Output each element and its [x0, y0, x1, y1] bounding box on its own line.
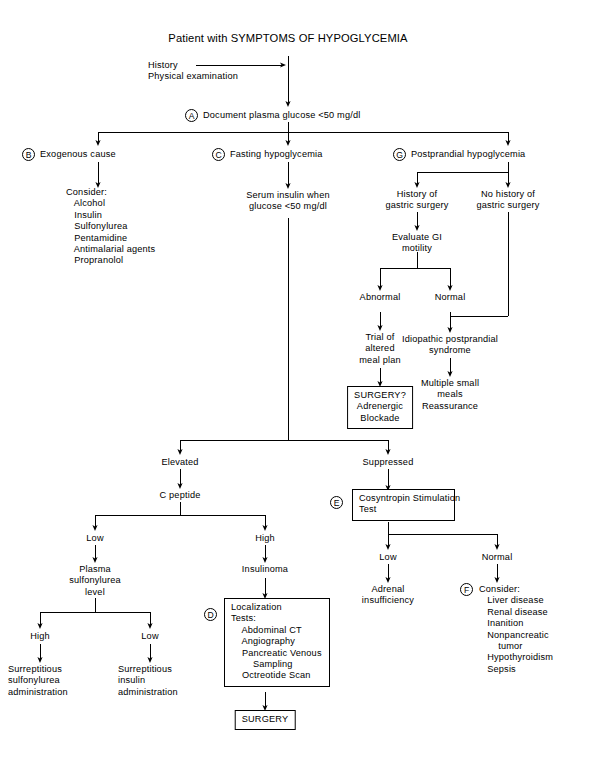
- node-consider-exogenous: Consider: Alcohol Insulin Sulfonylurea P…: [66, 187, 155, 267]
- ref-label-b: B: [22, 148, 35, 161]
- node-surgery-adrenergic-blockade: SURGERY? Adrenergic Blockade: [347, 386, 413, 429]
- node-localization-tests: Localization Tests: Abdominal CT Angiogr…: [224, 598, 330, 687]
- ref-label-e: E: [330, 496, 343, 509]
- node-cosyntropin-test: Cosyntropin Stimulation Test: [352, 489, 455, 521]
- page-title: Patient with SYMPTOMS OF HYPOGLYCEMIA: [168, 32, 407, 44]
- ref-label-f: F: [460, 583, 473, 596]
- ref-label-d: D: [204, 608, 217, 621]
- node-trial-altered-meal-plan: Trial of altered meal plan: [359, 332, 401, 366]
- node-idiopathic-postprandial-syndrome: Idiopathic postprandial syndrome: [402, 334, 498, 357]
- node-surgery: SURGERY: [235, 710, 296, 730]
- node-no-history-gastric-surgery: No history of gastric surgery: [476, 189, 539, 212]
- node-c-peptide: C peptide: [160, 490, 201, 501]
- node-postprandial-hypoglycemia: Postprandial hypoglycemia: [411, 149, 525, 160]
- ref-label-g: G: [393, 148, 406, 161]
- flowchart-canvas: Patient with SYMPTOMS OF HYPOGLYCEMIA Hi…: [0, 0, 593, 769]
- node-history: History Physical examination: [148, 60, 238, 83]
- ref-label-a: A: [185, 109, 198, 122]
- node-consider-normal: Consider: Liver disease Renal disease In…: [479, 584, 553, 675]
- node-sulfonylurea-low: Low: [141, 631, 158, 642]
- node-surreptitious-sulfonylurea: Surreptitious sulfonylurea administratio…: [8, 664, 68, 698]
- node-c-peptide-high: High: [255, 533, 275, 544]
- node-abnormal: Abnormal: [360, 292, 401, 303]
- node-sulfonylurea-high: High: [30, 631, 50, 642]
- node-surreptitious-insulin: Surreptitious insulin administration: [118, 664, 178, 698]
- node-normal-gi: Normal: [435, 292, 466, 303]
- node-serum-insulin: Serum insulin when glucose <50 mg/dl: [246, 190, 330, 213]
- node-elevated: Elevated: [161, 457, 198, 468]
- node-document-glucose: Document plasma glucose <50 mg/dl: [203, 110, 361, 121]
- node-adrenal-insufficiency: Adrenal insufficiency: [362, 584, 414, 607]
- node-multiple-small-meals: Multiple small meals Reassurance: [421, 378, 479, 412]
- node-insulinoma: Insulinoma: [242, 564, 288, 575]
- node-history-gastric-surgery: History of gastric surgery: [385, 189, 448, 212]
- node-c-peptide-low: Low: [86, 533, 103, 544]
- node-cosyntropin-low: Low: [379, 552, 396, 563]
- node-exogenous-cause: Exogenous cause: [40, 149, 116, 160]
- node-evaluate-gi-motility: Evaluate GI motility: [392, 232, 442, 255]
- node-suppressed: Suppressed: [363, 457, 414, 468]
- node-plasma-sulfonylurea-level: Plasma sulfonylurea level: [69, 564, 121, 598]
- node-cosyntropin-normal: Normal: [482, 552, 513, 563]
- node-fasting-hypoglycemia: Fasting hypoglycemia: [230, 149, 323, 160]
- ref-label-c: C: [212, 148, 225, 161]
